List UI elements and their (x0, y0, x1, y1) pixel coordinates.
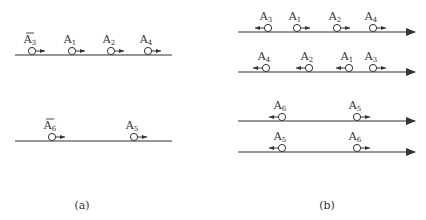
particle: A5 (269, 130, 286, 152)
particle-circle-icon (369, 64, 376, 71)
particle-line: A3A1A2A4 (238, 10, 415, 32)
particle: A3 (255, 10, 272, 32)
particle: A6 (348, 130, 370, 152)
particle-line: A6A5 (238, 99, 415, 121)
particle: A4 (253, 50, 271, 72)
particle-label: A6 (273, 99, 287, 113)
particle-line: A4A2A1A3 (238, 50, 415, 72)
particle-label: A3 (259, 10, 272, 24)
particle-circle-icon (130, 133, 137, 140)
panels-group: A3A1A2A4A6A5A3A1A2A4A4A2A1A3A6A5A5A6 (15, 10, 415, 152)
particle-circle-icon (264, 24, 271, 31)
particle-label: A1 (63, 33, 76, 47)
particle-line: A3A1A2A4 (15, 33, 172, 55)
particle-label: A5 (273, 130, 286, 144)
particle-circle-icon (278, 144, 285, 151)
particle-label: A4 (139, 33, 153, 47)
particle-line: A5A6 (238, 130, 415, 152)
particle: A3 (364, 50, 386, 72)
particle-label: A1 (288, 10, 301, 24)
particle-label: A4 (364, 10, 378, 24)
particle-circle-icon (293, 24, 300, 31)
particle-circle-icon (278, 113, 285, 120)
particle: A5 (125, 119, 147, 141)
particle-circle-icon (353, 144, 360, 151)
particle-label: A2 (328, 10, 341, 24)
particle: A2 (102, 33, 124, 55)
particle: A6 (43, 119, 65, 141)
particle-circle-icon (28, 47, 35, 54)
particle: A3 (23, 33, 45, 55)
caption-a: (a) (74, 199, 89, 212)
particle: A4 (364, 10, 386, 32)
particle-circle-icon (144, 47, 151, 54)
particle: A6 (269, 99, 287, 121)
caption-b: (b) (319, 199, 335, 212)
particle-circle-icon (48, 133, 55, 140)
particle: A2 (296, 50, 313, 72)
particle-circle-icon (305, 64, 312, 71)
particle-line: A6A5 (15, 119, 172, 141)
particle-label: A5 (125, 119, 138, 133)
particle-label: A2 (300, 50, 313, 64)
particle: A1 (336, 50, 353, 72)
particle-circle-icon (353, 113, 360, 120)
particle: A4 (139, 33, 161, 55)
particle: A5 (348, 99, 370, 121)
panel-a: A3A1A2A4A6A5 (15, 33, 172, 141)
particle: A1 (63, 33, 85, 55)
particle: A1 (288, 10, 310, 32)
particle-label: A3 (23, 33, 36, 47)
particle: A2 (328, 10, 350, 32)
particle-label: A5 (348, 99, 361, 113)
particle-label: A1 (340, 50, 353, 64)
panel-b: A3A1A2A4A4A2A1A3A6A5A5A6 (238, 10, 415, 152)
particle-circle-icon (333, 24, 340, 31)
particle-circle-icon (68, 47, 75, 54)
diagram-canvas: A3A1A2A4A6A5A3A1A2A4A4A2A1A3A6A5A5A6 (a)… (0, 0, 426, 220)
particle-circle-icon (262, 64, 269, 71)
particle-circle-icon (345, 64, 352, 71)
particle-label: A3 (364, 50, 377, 64)
particle-label: A4 (257, 50, 271, 64)
particle-label: A6 (43, 119, 57, 133)
particle-label: A2 (102, 33, 115, 47)
particle-label: A6 (348, 130, 362, 144)
particle-circle-icon (107, 47, 114, 54)
particle-circle-icon (369, 24, 376, 31)
